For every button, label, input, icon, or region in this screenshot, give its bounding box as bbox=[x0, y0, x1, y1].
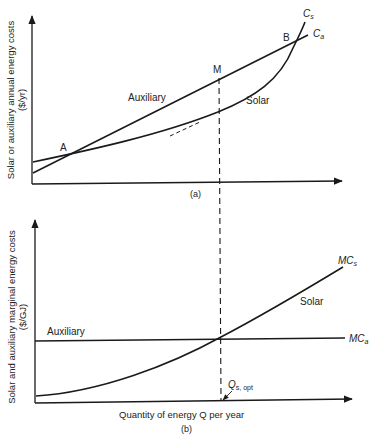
panel-b-y-axis-title: Solar and auxiliary marginal energy cost… bbox=[6, 230, 28, 404]
qs-opt-pointer-icon bbox=[223, 391, 232, 400]
panel-b-x-axis-title: Quantity of energy Q per year bbox=[119, 409, 244, 420]
qs-opt-label: Qs, opt bbox=[228, 379, 253, 392]
panel-a: Auxiliary Solar A B M Cs Ca (a) Solar or… bbox=[5, 8, 342, 199]
svg-text:Solar and auxiliary marginal e: Solar and auxiliary marginal energy cost… bbox=[6, 230, 17, 404]
point-a-label: A bbox=[60, 142, 67, 153]
optimum-dashed-vertical bbox=[219, 78, 221, 400]
panel-b-caption: (b) bbox=[181, 424, 192, 434]
panel-a-caption: (a) bbox=[190, 189, 201, 199]
solar-label-a: Solar bbox=[246, 95, 270, 106]
panel-b-x-axis bbox=[35, 399, 352, 403]
cs-label: Cs bbox=[303, 8, 314, 20]
auxiliary-marginal-cost-line bbox=[35, 338, 345, 341]
auxiliary-label-b: Auxiliary bbox=[47, 326, 85, 337]
panel-b: Auxiliary Solar MCs MCa Qs, opt Quantity… bbox=[6, 220, 369, 434]
point-b-label: B bbox=[283, 32, 290, 43]
auxiliary-label-a: Auxiliary bbox=[128, 92, 166, 103]
mcs-label: MCs bbox=[338, 255, 358, 267]
svg-text:Solar or auxiliary annual ener: Solar or auxiliary annual energy costs bbox=[5, 21, 16, 180]
solar-auxiliary-cost-diagram: Auxiliary Solar A B M Cs Ca (a) Solar or… bbox=[0, 0, 377, 440]
point-m-label: M bbox=[213, 64, 221, 75]
ca-label: Ca bbox=[313, 28, 324, 40]
svg-text:($/GJ): ($/GJ) bbox=[17, 304, 28, 330]
panel-a-y-axis-title: Solar or auxiliary annual energy costs (… bbox=[5, 21, 27, 180]
solar-label-b: Solar bbox=[300, 296, 324, 307]
solar-cost-curve bbox=[33, 22, 305, 162]
panel-a-x-axis bbox=[32, 181, 342, 184]
mca-label: MCa bbox=[349, 333, 369, 345]
svg-text:($/yr): ($/yr) bbox=[16, 89, 27, 111]
